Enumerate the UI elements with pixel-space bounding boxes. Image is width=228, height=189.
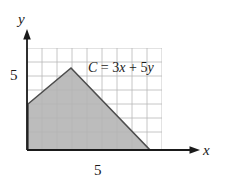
y-axis-tick-label-5: 5 — [10, 68, 18, 83]
objective-function-label: C = 3x + 5y — [88, 61, 154, 75]
plot-area — [0, 0, 228, 189]
x-axis-tick-label-5: 5 — [94, 163, 102, 178]
y-axis-label: y — [18, 12, 25, 27]
objective-plus-sign: + — [129, 60, 137, 75]
objective-term2-variable: y — [147, 60, 153, 75]
x-axis-label: x — [203, 143, 210, 158]
objective-equals-sign: = — [101, 60, 109, 75]
linear-programming-figure: y x 5 5 C = 3x + 5y — [0, 0, 228, 189]
objective-c-symbol: C — [88, 60, 97, 75]
